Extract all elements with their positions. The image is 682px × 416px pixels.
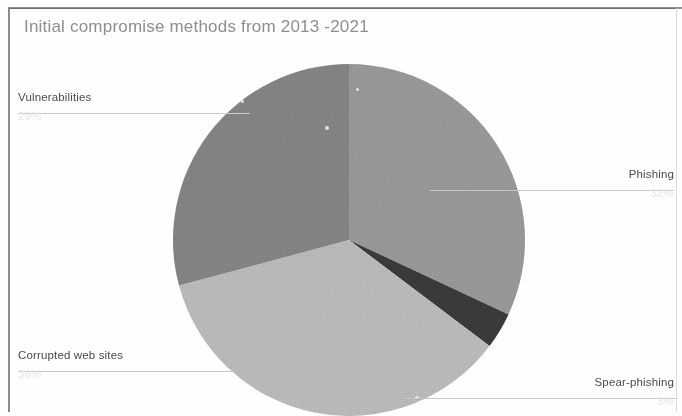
pie-label-phishing-percent: 32%: [629, 187, 674, 199]
pie-label-vulnerabilities-text: Vulnerabilities: [18, 91, 91, 103]
pie-label-corrupted-web-sites-text: Corrupted web sites: [18, 349, 123, 361]
pie-label-phishing-text: Phishing: [629, 168, 674, 180]
chart-screenshot: Initial compromise methods from 2013 -20…: [0, 0, 682, 416]
pie-label-phishing: Phishing 32%: [629, 168, 674, 199]
pie-label-corrupted-web-sites: Corrupted web sites 36%: [18, 349, 123, 380]
pie-label-corrupted-web-sites-percent: 36%: [18, 368, 123, 380]
pie-slice-group: [173, 64, 525, 416]
pie-label-vulnerabilities: Vulnerabilities 29%: [18, 91, 91, 122]
scan-speck: [356, 88, 359, 91]
scan-speck: [241, 100, 244, 103]
pie-label-spear-phishing: Spear-phishing 3%: [595, 376, 674, 407]
scan-speck: [325, 126, 329, 130]
pie-label-spear-phishing-text: Spear-phishing: [595, 376, 674, 388]
pie-label-vulnerabilities-percent: 29%: [18, 110, 91, 122]
pie-label-spear-phishing-percent: 3%: [595, 395, 674, 407]
